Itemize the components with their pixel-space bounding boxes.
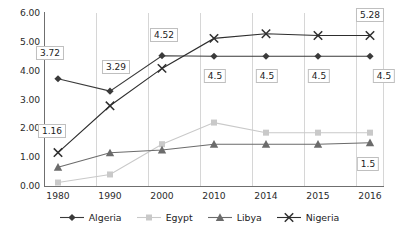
data-point-diamond	[314, 53, 321, 60]
data-label: 4.5	[256, 69, 278, 83]
legend-label: Nigeria	[306, 212, 340, 223]
x-tick-label: 1980	[38, 190, 78, 201]
x-tick-label: 1990	[90, 190, 130, 201]
data-point-square	[55, 180, 61, 186]
data-label: 4.5	[373, 69, 395, 83]
legend-label: Algeria	[89, 212, 122, 223]
legend-marker-square-icon	[136, 212, 162, 223]
series-line	[58, 34, 370, 153]
data-point-square	[315, 130, 321, 136]
data-point-diamond	[68, 213, 75, 220]
data-point-diamond	[54, 75, 61, 82]
data-point-square	[146, 214, 152, 220]
x-tick-label: 2016	[350, 190, 390, 201]
data-point-x	[54, 148, 62, 156]
data-point-x	[158, 64, 166, 72]
x-tick-label: 2000	[142, 190, 182, 201]
legend-label: Libya	[237, 212, 262, 223]
legend-item-nigeria[interactable]: Nigeria	[276, 212, 340, 223]
data-label: 4.5	[204, 69, 226, 83]
x-tick-label: 2014	[246, 190, 286, 201]
data-label: 1.5	[357, 157, 379, 171]
legend-item-libya[interactable]: Libya	[207, 212, 262, 223]
data-point-x	[106, 102, 114, 110]
data-point-diamond	[158, 52, 165, 59]
data-point-square	[263, 130, 269, 136]
legend-label: Egypt	[166, 212, 193, 223]
chart-legend: AlgeriaEgyptLibyaNigeria	[0, 206, 398, 228]
data-point-diamond	[106, 88, 113, 95]
legend-marker-diamond-icon	[59, 212, 85, 223]
x-tick-label: 2015	[298, 190, 338, 201]
data-label: 5.28	[356, 8, 384, 22]
line-chart: 0.001.002.003.004.005.006.00 19801990200…	[0, 0, 398, 232]
data-point-square	[367, 130, 373, 136]
data-label: 4.52	[150, 28, 178, 42]
x-tick-label: 2010	[194, 190, 234, 201]
data-point-square	[107, 171, 113, 177]
data-point-diamond	[366, 53, 373, 60]
data-point-diamond	[262, 53, 269, 60]
data-label: 4.5	[308, 69, 330, 83]
series-egypt	[55, 120, 373, 186]
series-line	[58, 123, 370, 183]
legend-marker-x-icon	[276, 212, 302, 223]
data-label: 3.72	[36, 46, 64, 60]
data-label: 3.29	[102, 60, 130, 74]
data-label: 1.16	[38, 124, 66, 138]
legend-item-algeria[interactable]: Algeria	[59, 212, 122, 223]
legend-item-egypt[interactable]: Egypt	[136, 212, 193, 223]
legend-marker-triangle-icon	[207, 212, 233, 223]
series-libya	[54, 139, 374, 171]
series-nigeria	[54, 30, 374, 157]
data-point-square	[211, 120, 217, 126]
data-point-diamond	[210, 53, 217, 60]
